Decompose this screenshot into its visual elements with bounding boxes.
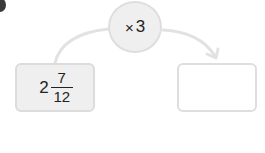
numerator: 7 [56,70,68,87]
operator-circle: × 3 [108,1,162,53]
start-value-box: 2 7 12 [15,63,95,112]
multiply-symbol: × [125,19,134,36]
fraction-part: 7 12 [51,70,73,105]
denominator: 12 [53,88,70,105]
right-connector-arc [163,30,215,56]
whole-part: 2 [39,78,48,98]
left-connector-arc [55,29,108,63]
operator-operand: 3 [136,17,145,37]
answer-box[interactable] [177,63,257,112]
mixed-number: 2 7 12 [39,70,72,105]
